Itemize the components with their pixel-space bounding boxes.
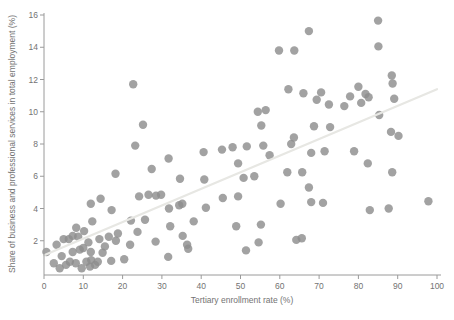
y-tick-label: 12 — [29, 75, 39, 85]
data-point — [87, 200, 95, 208]
data-point — [346, 92, 354, 100]
x-tick-label: 20 — [118, 281, 128, 291]
data-point — [139, 121, 147, 129]
data-point — [305, 183, 313, 191]
data-point — [242, 246, 250, 254]
data-point — [387, 128, 395, 136]
scatter-chart-figure: 2468101214160102030405060708090100 Share… — [0, 0, 454, 320]
data-point — [184, 245, 192, 253]
data-point — [164, 253, 172, 261]
data-point — [179, 232, 187, 240]
data-points — [42, 16, 432, 272]
data-point — [366, 206, 374, 214]
data-point — [298, 168, 306, 176]
y-axis-title: Share of business and professional servi… — [7, 0, 19, 289]
data-point — [131, 141, 139, 149]
data-point — [234, 192, 242, 200]
data-point — [232, 222, 240, 230]
data-point — [259, 141, 267, 149]
data-point — [202, 204, 210, 212]
data-point — [357, 99, 365, 107]
data-point — [307, 149, 315, 157]
x-tick-label: 100 — [430, 281, 444, 291]
data-point — [390, 95, 398, 103]
data-point — [313, 96, 321, 104]
data-point — [250, 172, 258, 180]
x-tick-label: 60 — [275, 281, 285, 291]
data-point — [95, 235, 103, 243]
x-tick-label: 30 — [157, 281, 167, 291]
data-point — [364, 159, 372, 167]
data-point — [218, 145, 226, 153]
x-tick-label: 50 — [236, 281, 246, 291]
data-point — [166, 222, 174, 230]
y-tick-label: 6 — [33, 171, 38, 181]
data-point — [84, 238, 92, 246]
data-point — [374, 16, 382, 24]
scatter-plot: 2468101214160102030405060708090100 — [0, 0, 454, 320]
data-point — [374, 42, 382, 50]
data-point — [239, 174, 247, 182]
x-tick-label: 80 — [354, 281, 364, 291]
data-point — [129, 80, 137, 88]
x-tick-label: 90 — [393, 281, 403, 291]
data-point — [298, 234, 306, 242]
data-point — [96, 195, 104, 203]
data-point — [305, 27, 313, 35]
data-point — [320, 147, 328, 155]
data-point — [388, 71, 396, 79]
data-point — [190, 217, 198, 225]
data-point — [112, 237, 120, 245]
data-point — [290, 133, 298, 141]
data-point — [144, 191, 152, 199]
data-point — [299, 89, 307, 97]
data-point — [310, 122, 318, 130]
y-tick-label: 10 — [29, 107, 39, 117]
data-point — [254, 108, 262, 116]
data-point — [151, 237, 159, 245]
data-point — [80, 227, 88, 235]
data-point — [354, 83, 362, 91]
data-point — [141, 216, 149, 224]
data-point — [164, 154, 172, 162]
data-point — [178, 200, 186, 208]
data-point — [364, 93, 372, 101]
data-point — [290, 46, 298, 54]
data-point — [87, 248, 95, 256]
data-point — [228, 143, 236, 151]
data-point — [135, 192, 143, 200]
data-point — [394, 132, 402, 140]
data-point — [101, 242, 109, 250]
data-point — [234, 159, 242, 167]
data-point — [257, 220, 265, 228]
data-point — [94, 258, 102, 266]
data-point — [72, 224, 80, 232]
y-tick-label: 4 — [33, 204, 38, 214]
data-point — [126, 241, 134, 249]
y-tick-label: 14 — [29, 42, 39, 52]
trend-line — [44, 89, 437, 255]
data-point — [105, 233, 113, 241]
data-point — [284, 85, 292, 93]
data-point — [275, 46, 283, 54]
data-point — [340, 102, 348, 110]
data-point — [107, 257, 115, 265]
data-point — [107, 206, 115, 214]
data-point — [283, 168, 291, 176]
data-point — [199, 148, 207, 156]
data-point — [385, 204, 393, 212]
data-point — [176, 175, 184, 183]
data-point — [157, 191, 165, 199]
data-point — [262, 106, 270, 114]
y-tick-label: 8 — [33, 139, 38, 149]
data-point — [111, 170, 119, 178]
x-axis-title: Tertiary enrollment rate (%) — [44, 295, 440, 305]
data-point — [325, 100, 333, 108]
x-tick-label: 70 — [314, 281, 324, 291]
data-point — [58, 252, 66, 260]
data-point — [148, 165, 156, 173]
data-point — [350, 147, 358, 155]
y-tick-label: 16 — [29, 10, 39, 20]
data-point — [254, 238, 262, 246]
x-tick-label: 40 — [196, 281, 206, 291]
